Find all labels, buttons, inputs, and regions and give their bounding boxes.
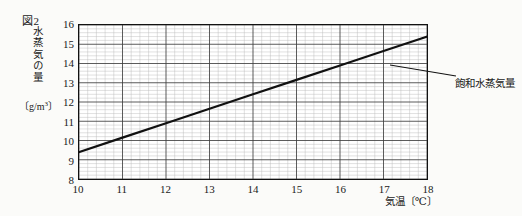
y-tick-label: 15 <box>44 39 74 49</box>
leader-line-stroke <box>390 61 456 76</box>
y-tick-label: 14 <box>44 58 74 68</box>
x-tick-label: 15 <box>282 183 312 195</box>
x-tick-label: 16 <box>326 183 356 195</box>
x-tick-label: 11 <box>107 183 137 195</box>
y-tick-label: 13 <box>44 78 74 88</box>
x-axis-tick-labels: 101112131415161718 <box>78 183 428 199</box>
x-tick-label: 10 <box>63 183 93 195</box>
annotation-label: 飽和水蒸気量 <box>455 75 515 90</box>
y-tick-label: 10 <box>44 136 74 146</box>
y-tick-label: 16 <box>44 19 74 29</box>
y-axis-tick-labels: 8910111213141516 <box>44 24 74 180</box>
y-axis-title: 水蒸気の量 <box>31 26 42 83</box>
x-tick-label: 14 <box>238 183 268 195</box>
plot-area <box>78 24 428 180</box>
plot-grid-and-series <box>79 25 427 179</box>
x-axis-label: 気温〔℃〕 <box>385 193 437 208</box>
x-tick-label: 12 <box>151 183 181 195</box>
figure-container: 図2 水蒸気の量 〔g/m3〕 8910111213141516 1011121… <box>0 0 522 216</box>
x-tick-label: 13 <box>194 183 224 195</box>
y-tick-label: 9 <box>44 156 74 166</box>
y-tick-label: 11 <box>44 117 74 127</box>
y-tick-label: 12 <box>44 97 74 107</box>
